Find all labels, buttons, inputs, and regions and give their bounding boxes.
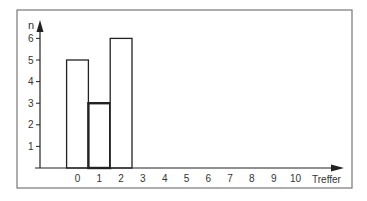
x-tick-label: 5: [184, 173, 190, 184]
x-tick-label: 7: [227, 173, 233, 184]
bar-0: [67, 60, 89, 168]
y-tick-label: 1: [28, 141, 34, 152]
histogram-chart: nTreffer 123456012345678910: [0, 0, 367, 201]
x-tick-label: 1: [97, 173, 103, 184]
x-axis-label: Treffer: [312, 174, 342, 185]
y-tick-label: 3: [28, 98, 34, 109]
y-axis-label: n: [28, 19, 34, 31]
x-tick-label: 4: [162, 173, 168, 184]
bar-1: [88, 103, 110, 168]
y-tick-label: 6: [28, 33, 34, 44]
y-tick-label: 5: [28, 55, 34, 66]
x-tick-label: 2: [118, 173, 124, 184]
x-tick-label: 9: [271, 173, 277, 184]
y-tick-label: 4: [28, 76, 34, 87]
x-tick-label: 10: [290, 173, 302, 184]
x-tick-label: 0: [75, 173, 81, 184]
y-tick-label: 2: [28, 119, 34, 130]
bar-2: [110, 38, 132, 168]
x-tick-label: 6: [206, 173, 212, 184]
x-tick-label: 3: [140, 173, 146, 184]
x-tick-label: 8: [249, 173, 255, 184]
